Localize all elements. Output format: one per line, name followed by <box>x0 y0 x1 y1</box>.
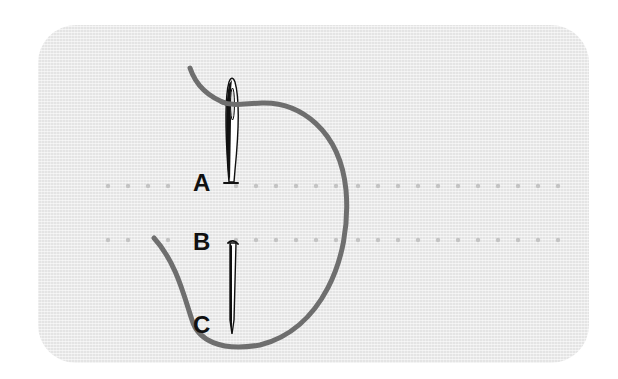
diagram-drawing <box>0 0 618 379</box>
diagram-stage: A B C <box>0 0 618 379</box>
needle-lower <box>228 241 238 334</box>
thread-loop <box>154 102 347 347</box>
point-label-c: C <box>193 313 210 337</box>
point-label-b: B <box>193 230 210 254</box>
point-label-a: A <box>193 171 210 195</box>
needle-upper <box>224 78 238 183</box>
stitch-row-upper <box>106 184 560 188</box>
stitch-row-lower <box>106 238 560 242</box>
thread-tail <box>190 68 228 104</box>
